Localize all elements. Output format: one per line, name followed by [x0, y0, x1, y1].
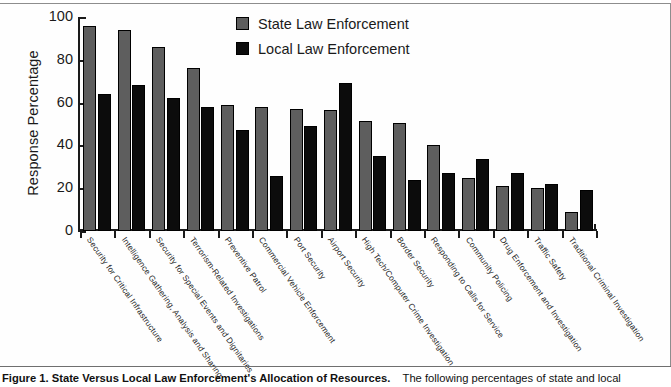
bar-state — [393, 123, 406, 231]
bar-group — [187, 17, 215, 231]
legend-item-local: Local Law Enforcement — [236, 36, 496, 61]
bar-local — [132, 85, 145, 231]
caption-title: Figure 1. State Versus Local Law Enforce… — [2, 372, 390, 384]
bar-state — [152, 47, 165, 231]
bar-state — [187, 68, 200, 231]
bar-local — [511, 173, 524, 231]
bar-state — [221, 105, 234, 231]
bar-group — [531, 17, 559, 231]
legend-item-state: State Law Enforcement — [236, 11, 496, 36]
y-tick-label: 40 — [57, 136, 73, 152]
y-tick-label: 20 — [57, 179, 73, 195]
x-axis-label: Port Security — [291, 235, 328, 281]
bar-local — [236, 130, 249, 231]
bar-local — [442, 173, 455, 231]
bar-local — [339, 83, 352, 231]
bar-state — [462, 178, 475, 232]
bar-state — [290, 109, 303, 231]
x-axis-label: Traffic Safety — [532, 235, 569, 282]
y-tick-label: 0 — [65, 222, 73, 238]
bar-local — [304, 126, 317, 231]
bar-local — [167, 98, 180, 231]
bar-state — [565, 212, 578, 231]
bar-local — [98, 94, 111, 231]
bar-group — [83, 17, 111, 231]
legend-swatch-state-icon — [236, 17, 249, 30]
legend-label-state: State Law Enforcement — [258, 16, 409, 32]
bar-local — [373, 156, 386, 231]
x-axis-label: Responding to Calls for Service — [429, 235, 507, 340]
x-axis-label: Commercial Vehicle Enforcement — [257, 235, 338, 345]
chart-legend: State Law Enforcement Local Law Enforcem… — [236, 11, 496, 61]
figure-caption: Figure 1. State Versus Local Law Enforce… — [2, 371, 669, 385]
y-tick-label: 100 — [49, 8, 73, 24]
y-tick-label: 80 — [57, 51, 73, 67]
bar-state — [255, 107, 268, 231]
bar-group — [152, 17, 180, 231]
bar-state — [531, 188, 544, 231]
y-tick-label: 60 — [57, 94, 73, 110]
bar-local — [270, 176, 283, 231]
bar-local — [408, 180, 421, 231]
bar-chart: Response Percentage 020406080100 Securit… — [0, 3, 671, 365]
bar-local — [580, 190, 593, 231]
bar-group — [118, 17, 146, 231]
bar-state — [359, 121, 372, 231]
bar-group — [565, 17, 593, 231]
x-axis-labels: Security for Critical InfrastructureInte… — [80, 235, 596, 365]
bar-state — [83, 26, 96, 231]
x-axis-label: Traditional Criminal Investigation — [567, 235, 647, 343]
bar-local — [201, 107, 214, 231]
caption-text: The following percentages of state and l… — [403, 372, 621, 384]
legend-label-local: Local Law Enforcement — [258, 41, 410, 57]
legend-swatch-local-icon — [236, 42, 249, 55]
y-axis-title: Response Percentage — [25, 13, 41, 233]
bar-state — [118, 30, 131, 231]
bar-group — [496, 17, 524, 231]
bar-state — [496, 186, 509, 231]
bar-state — [324, 110, 337, 231]
x-tick-mark — [596, 231, 598, 238]
bar-local — [545, 184, 558, 231]
bar-local — [476, 159, 489, 231]
caption-divider — [0, 366, 671, 367]
bar-state — [427, 145, 440, 231]
